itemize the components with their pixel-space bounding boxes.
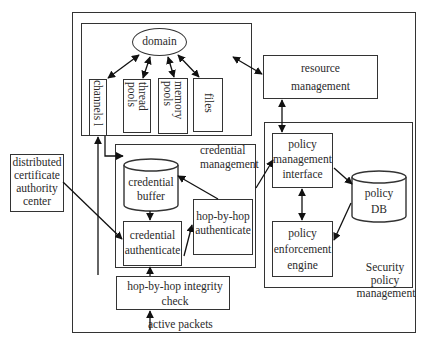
distributed-ca-label-3: authority (8, 182, 66, 195)
distributed-ca-label-2: certificate (8, 169, 66, 182)
security-policy-label-3: management (350, 287, 422, 300)
credential-authenticate-label-2: authenticate (121, 244, 184, 257)
resource-management-label-1: resource (263, 62, 378, 75)
credential-authenticate-label-1: credential (121, 229, 184, 242)
security-policy-label-2: policy (355, 274, 415, 287)
distributed-ca-label-4: center (8, 195, 66, 208)
thread-pools-label-1: thread (137, 82, 149, 111)
pee-label-3: engine (270, 259, 335, 272)
files-label: files (203, 93, 215, 113)
integrity-check-label-2: check (116, 295, 234, 308)
credential-management-label-2: management (200, 158, 262, 171)
pee-label-2: enforcement (270, 243, 335, 256)
credential-buffer-label-1: credential (124, 176, 178, 189)
pmi-label-2: management (270, 153, 335, 166)
pee-label-1: policy (270, 227, 335, 240)
pmi-label-3: interface (270, 168, 335, 181)
pmi-label-1: policy (270, 138, 335, 151)
channels-label: channels l (92, 80, 104, 135)
hop-by-hop-authenticate-label-1: hop-by-hop (191, 210, 255, 223)
policy-db-label-1: policy (352, 187, 406, 200)
hop-by-hop-authenticate-label-2: authenticate (191, 224, 255, 237)
thread-pools-label-2: pools (126, 82, 138, 107)
memory-pools-label-1: memory (173, 81, 185, 119)
credential-management-label-1: credential (200, 144, 262, 157)
integrity-check-label-1: hop-by-hop integrity (116, 280, 234, 293)
memory-pools-label-2: pools (162, 81, 174, 106)
domain-label: domain (132, 35, 187, 48)
resource-management-label-2: management (263, 80, 378, 93)
security-policy-label-1: Security (355, 261, 415, 274)
distributed-ca-label-1: distributed (8, 156, 66, 169)
active-packets-label: active packets (148, 318, 218, 331)
policy-db-label-2: DB (352, 203, 406, 216)
credential-buffer-label-2: buffer (124, 190, 178, 203)
